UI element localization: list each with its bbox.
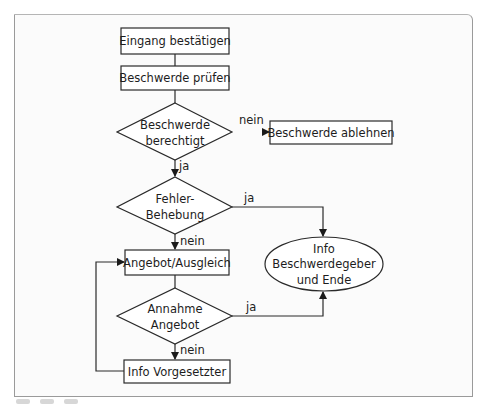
node-label: Angebot bbox=[151, 318, 200, 332]
node-label: Eingang bestätigen bbox=[119, 34, 231, 48]
node-label: berechtigt bbox=[145, 134, 205, 148]
node-label: Info bbox=[313, 242, 335, 256]
edge-label: nein bbox=[180, 234, 205, 248]
flowchart: Eingang bestätigen Beschwerde prüfen Bes… bbox=[0, 0, 486, 407]
edge-label: nein bbox=[239, 113, 264, 127]
edge-d2-end bbox=[232, 207, 323, 236]
node-label: Angebot/Ausgleich bbox=[123, 256, 231, 270]
node-label: Annahme bbox=[147, 302, 202, 316]
node-label: Beschwerdegeber bbox=[272, 257, 376, 271]
node-label: und Ende bbox=[297, 273, 351, 287]
edge-label: ja bbox=[245, 300, 256, 314]
edge-label: ja bbox=[243, 191, 254, 205]
node-label: Fehler- bbox=[156, 192, 195, 206]
node-label: Beschwerde ablehnen bbox=[267, 126, 394, 140]
clipped-caption bbox=[16, 399, 78, 405]
node-label: Info Vorgesetzter bbox=[128, 365, 227, 379]
node-label: Beschwerde bbox=[140, 118, 210, 132]
edge-label: nein bbox=[180, 343, 205, 357]
node-label: Behebung bbox=[146, 208, 205, 222]
node-annahme-angebot bbox=[117, 288, 232, 344]
node-label: Beschwerde prüfen bbox=[119, 71, 230, 85]
edge-label: ja bbox=[178, 159, 189, 173]
